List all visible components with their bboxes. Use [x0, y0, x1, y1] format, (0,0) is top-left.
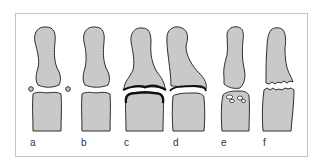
loose-body-right: [66, 87, 71, 92]
finger-joint-diagram: [0, 0, 325, 165]
panel-label-a: a: [30, 138, 36, 148]
panel-f: [262, 28, 294, 131]
panel-a: [29, 27, 71, 131]
cyst: [226, 95, 232, 99]
panel-label-c: c: [124, 138, 129, 148]
panel-label-b: b: [81, 138, 87, 148]
panel-e: [221, 27, 249, 131]
loose-body-left: [29, 87, 34, 92]
cyst: [242, 99, 246, 102]
cyst: [230, 99, 235, 102]
panel-b: [82, 27, 111, 131]
panel-label-d: d: [173, 138, 179, 148]
panel-label-f: f: [263, 138, 266, 148]
panel-c: [123, 28, 166, 131]
panel-label-e: e: [221, 138, 227, 148]
panel-d: [167, 27, 206, 131]
cyst: [237, 96, 242, 100]
